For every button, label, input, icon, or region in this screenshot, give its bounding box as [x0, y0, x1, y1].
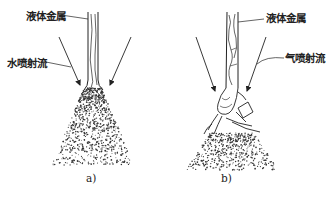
powder-cone-b [187, 132, 275, 170]
label-gas-jet: 气喷射流 [285, 53, 325, 64]
caption-b: b) [221, 173, 232, 184]
fragmenting-sheets [204, 88, 260, 134]
label-liquid-metal-a: 液体金属 [26, 11, 66, 22]
leader-lines-b [238, 19, 284, 64]
label-water-jet: 水喷射流 [7, 58, 47, 69]
powder-cone-a [53, 87, 131, 165]
panel-a-water-atomization [46, 12, 131, 166]
leader-lines-a [46, 15, 88, 67]
liquid-metal-stream-b [226, 12, 238, 88]
label-liquid-metal-b: 液体金属 [266, 13, 306, 24]
liquid-metal-stream-a [84, 12, 103, 90]
panel-b-gas-atomization [187, 12, 284, 171]
atomization-diagram [0, 0, 332, 197]
caption-a: a) [86, 173, 96, 184]
